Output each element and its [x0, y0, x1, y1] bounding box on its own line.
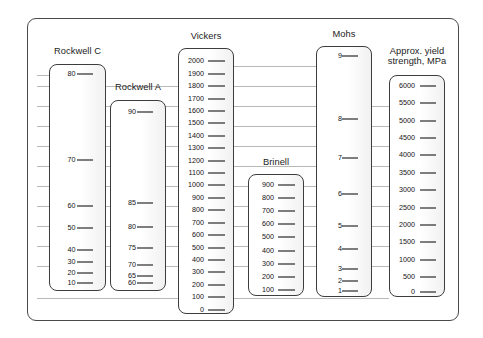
tick-label: 200: [192, 281, 204, 289]
tick-dash: [137, 226, 153, 227]
tick-label: 40: [68, 246, 76, 254]
tick-label: 200: [262, 273, 274, 281]
tick-label: 800: [192, 206, 204, 214]
tick-label: 80: [128, 223, 136, 231]
scale-title-line: Rockwell A: [115, 82, 161, 93]
tick-dash: [420, 120, 436, 121]
tick-label: 700: [262, 207, 274, 215]
tick-label: 3500: [399, 169, 415, 177]
tick-dash: [77, 249, 93, 250]
tick-dash: [208, 197, 225, 198]
tick-dash: [420, 291, 436, 292]
tick-dash: [137, 248, 153, 249]
scale-title-rockwellc: Rockwell C: [54, 46, 101, 57]
tick-dash: [420, 207, 436, 208]
tick-dash: [208, 123, 225, 124]
tick-label: 0: [200, 306, 204, 314]
tick-dash: [278, 250, 295, 251]
tick-label: 1600: [188, 107, 204, 115]
scale-column-vickers: Vickers200019001800170016001500140013001…: [178, 0, 234, 338]
tick-dash: [420, 190, 436, 191]
tick-dash: [208, 73, 225, 74]
tick-dash: [420, 138, 436, 139]
scale-column-brinell: Brinell900800700600500400300200100: [248, 0, 304, 338]
tick-label: 50: [68, 224, 76, 232]
tick-dash: [208, 235, 225, 236]
tick-dash: [208, 135, 225, 136]
tick-dash: [278, 224, 295, 225]
tick-label: 70: [128, 261, 136, 269]
scale-title-yield: Approx. yieldstrength, MPa: [388, 46, 447, 66]
tick-label: 70: [68, 156, 76, 164]
scale-title-vickers: Vickers: [191, 31, 222, 42]
tick-dash: [278, 263, 295, 264]
tick-dash: [208, 210, 225, 211]
tick-dash: [137, 203, 153, 204]
tick-label: 80: [68, 70, 76, 78]
tick-label: 4500: [399, 134, 415, 142]
tick-dash: [77, 159, 93, 160]
tick-label: 60: [128, 279, 136, 287]
tick-label: 2000: [399, 221, 415, 229]
tick-dash: [420, 155, 436, 156]
tick-dash: [77, 273, 93, 274]
tick-dash: [342, 157, 358, 158]
tick-dash: [342, 248, 358, 249]
tick-dash: [77, 74, 93, 75]
scale-box-mohs: 987654321: [316, 46, 372, 297]
tick-label: 2000: [188, 57, 204, 65]
tick-label: 75: [128, 244, 136, 252]
tick-label: 900: [262, 181, 274, 189]
scale-title-line: Rockwell C: [54, 46, 101, 57]
tick-dash: [208, 309, 225, 310]
tick-label: 1100: [189, 169, 204, 177]
tick-label: 400: [192, 256, 204, 264]
tick-dash: [77, 283, 93, 284]
tick-label: 900: [192, 194, 204, 202]
tick-label: 500: [262, 233, 274, 241]
tick-label: 100: [192, 293, 204, 301]
tick-label: 1200: [188, 157, 204, 165]
tick-dash: [342, 281, 358, 282]
tick-label: 300: [192, 268, 204, 276]
tick-dash: [342, 119, 358, 120]
tick-dash: [208, 111, 225, 112]
tick-dash: [208, 247, 225, 248]
tick-dash: [278, 197, 295, 198]
scale-box-rockwella: 90858075706560: [110, 100, 166, 291]
tick-dash: [278, 184, 295, 185]
scale-title-mohs: Mohs: [333, 29, 356, 40]
tick-label: 1500: [399, 238, 415, 246]
tick-label: 1000: [188, 181, 204, 189]
tick-dash: [208, 61, 225, 62]
tick-dash: [342, 55, 358, 56]
scale-title-line: Approx. yield: [388, 46, 447, 56]
tick-dash: [137, 265, 153, 266]
tick-label: 60: [68, 202, 76, 210]
scale-title-rockwella: Rockwell A: [115, 82, 161, 93]
tick-dash: [77, 228, 93, 229]
tick-dash: [278, 290, 295, 291]
tick-dash: [342, 268, 358, 269]
scale-title-line: Brinell: [263, 157, 289, 168]
tick-label: 700: [192, 219, 204, 227]
tick-label: 90: [128, 108, 136, 116]
scale-title-line: Vickers: [191, 31, 222, 42]
tick-dash: [77, 261, 93, 262]
tick-label: 5000: [399, 117, 415, 125]
tick-label: 1700: [188, 95, 204, 103]
tick-dash: [420, 277, 436, 278]
tick-dash: [208, 185, 225, 186]
tick-dash: [77, 205, 93, 206]
tick-dash: [420, 172, 436, 173]
tick-label: 1400: [188, 132, 204, 140]
tick-label: 1300: [188, 144, 204, 152]
tick-label: 400: [262, 247, 274, 255]
hardness-comparison-chart: Rockwell C8070605040302010Rockwell A9085…: [0, 0, 483, 338]
scale-title-brinell: Brinell: [263, 157, 289, 168]
tick-dash: [137, 112, 153, 113]
scale-box-rockwellc: 8070605040302010: [49, 64, 106, 291]
tick-label: 0: [411, 288, 415, 296]
tick-dash: [208, 297, 225, 298]
scale-box-yield: 6000550050004500400035003000250020001500…: [389, 75, 445, 297]
